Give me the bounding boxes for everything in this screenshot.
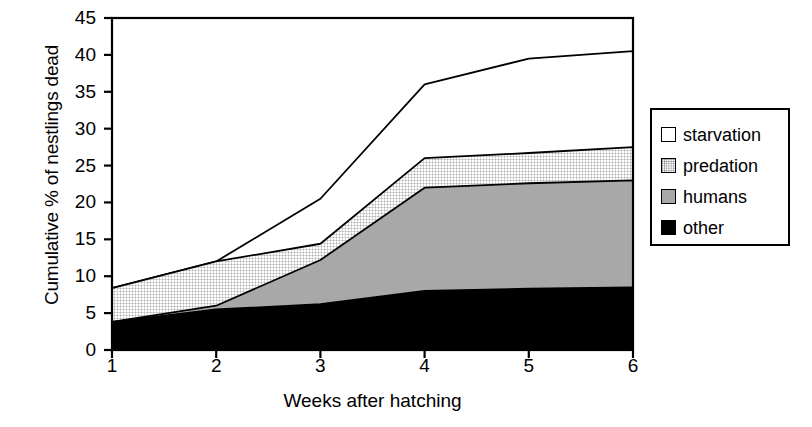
legend-item-predation: predation [661, 150, 788, 181]
area-bands [112, 51, 633, 350]
chart-figure: Cumulative % of nestlings dead Weeks aft… [0, 0, 812, 427]
white-square-icon [661, 127, 676, 142]
legend-item-label: starvation [683, 126, 761, 144]
legend-item-starvation: starvation [661, 119, 788, 150]
legend-item-label: humans [683, 188, 747, 206]
legend: starvation predation humans other [650, 108, 790, 246]
black-square-icon [661, 220, 676, 235]
legend-item-other: other [661, 212, 788, 243]
legend-item-label: predation [683, 157, 758, 175]
gray-square-icon [661, 189, 676, 204]
legend-item-humans: humans [661, 181, 788, 212]
stippled-square-icon [661, 158, 676, 173]
legend-item-label: other [683, 219, 724, 237]
